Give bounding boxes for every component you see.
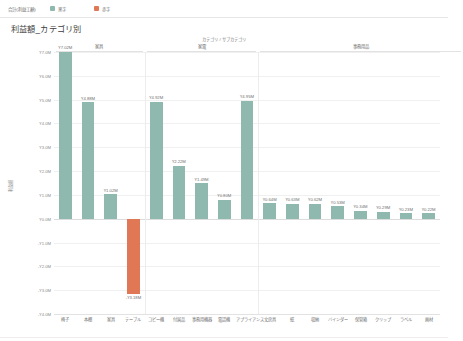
top-legend-bar: 合計(利益工額) 黒字 赤字 — [0, 0, 448, 18]
bar[interactable] — [400, 213, 413, 218]
y-axis-tick: ¥7.0M — [39, 50, 51, 55]
bar-value-label: ¥0.63M — [281, 197, 304, 202]
bar[interactable] — [82, 102, 95, 218]
bar[interactable] — [218, 200, 231, 219]
bar[interactable] — [241, 101, 254, 219]
bar-value-label: ¥0.64M — [258, 197, 281, 202]
bar-value-label: ¥0.29M — [372, 205, 395, 210]
x-axis-tick[interactable]: 画材 — [417, 316, 440, 322]
legend-item-profit[interactable]: 黒字 — [50, 6, 66, 12]
bar[interactable] — [309, 204, 322, 219]
bar-value-label: ¥7.02M — [54, 45, 77, 50]
legend-item-loss[interactable]: 赤字 — [94, 6, 110, 12]
bar[interactable] — [173, 166, 186, 219]
x-axis-tick[interactable]: 保管箱 — [349, 316, 372, 322]
bar-value-label: ¥0.34M — [349, 204, 372, 209]
y-axis-tick: -¥2.0M — [38, 264, 51, 269]
x-axis-tick[interactable]: クリップ — [372, 316, 395, 322]
y-axis-tick: ¥4.0M — [39, 121, 51, 126]
zero-line — [54, 219, 440, 220]
bar[interactable] — [59, 52, 72, 219]
bar-value-label: -¥3.18M — [122, 295, 145, 300]
x-axis-tick[interactable]: 付属品 — [168, 316, 191, 322]
x-axis-tick[interactable]: 事務用機器 — [190, 316, 213, 322]
x-axis-tick[interactable]: 本棚 — [77, 316, 100, 322]
bar-value-label: ¥1.49M — [190, 177, 213, 182]
bar-value-label: ¥0.22M — [417, 207, 440, 212]
x-axis: 椅子本棚家具テーブルコピー機付属品事務用機器電話機アプライアンス文房具紙収納バイ… — [54, 314, 440, 334]
x-axis-tick[interactable]: 電話機 — [213, 316, 236, 322]
gridline — [54, 290, 440, 291]
bar[interactable] — [150, 102, 163, 219]
bar-value-label: ¥2.22M — [168, 159, 191, 164]
bar-value-label: ¥0.53M — [326, 200, 349, 205]
x-axis-tick[interactable]: 紙 — [281, 316, 304, 322]
y-axis-tick: ¥6.0M — [39, 73, 51, 78]
chart-title: 利益額_カテゴリ別 — [11, 22, 81, 34]
x-axis-tick[interactable]: ラベル — [395, 316, 418, 322]
bar[interactable] — [286, 204, 299, 219]
bar[interactable] — [354, 211, 367, 219]
bar-value-label: ¥1.02M — [99, 188, 122, 193]
bar-value-label: ¥0.62M — [304, 197, 327, 202]
bar-value-label: ¥4.95M — [236, 94, 259, 99]
y-axis-tick: ¥2.0M — [39, 169, 51, 174]
legend-swatch-red — [94, 6, 99, 11]
bar[interactable] — [127, 219, 140, 295]
bar[interactable] — [195, 183, 208, 218]
bar[interactable] — [263, 203, 276, 218]
y-axis-tick: ¥0.0M — [39, 216, 51, 221]
measure-label: 合計(利益工額) — [8, 6, 36, 12]
y-axis-title: 利益額 — [7, 180, 13, 192]
y-axis-tick: ¥3.0M — [39, 145, 51, 150]
bar[interactable] — [104, 194, 117, 218]
y-axis-tick: -¥1.0M — [38, 240, 51, 245]
y-axis: 利益額 ¥7.0M¥6.0M¥5.0M¥4.0M¥3.0M¥2.0M¥1.0M¥… — [8, 52, 54, 314]
bar-value-label: ¥0.23M — [395, 207, 418, 212]
legend-label-loss: 赤字 — [102, 6, 110, 12]
x-axis-tick[interactable]: コピー機 — [145, 316, 168, 322]
x-axis-tick[interactable]: 家具 — [99, 316, 122, 322]
bar[interactable] — [377, 212, 390, 219]
x-axis-tick[interactable]: バインダー — [326, 316, 349, 322]
panel-divider — [145, 52, 146, 314]
bar[interactable] — [422, 213, 435, 218]
group-axis-title: カテゴリ / サブカテゴリ — [8, 36, 440, 42]
x-axis-tick[interactable]: テーブル — [122, 316, 145, 322]
bar[interactable] — [331, 206, 344, 219]
gridline — [54, 76, 440, 77]
y-axis-tick: -¥3.0M — [38, 288, 51, 293]
bottom-divider — [0, 337, 448, 338]
x-axis-tick[interactable]: 収納 — [304, 316, 327, 322]
legend-swatch-green — [50, 6, 55, 11]
gridline — [54, 52, 440, 53]
bar-value-label: ¥0.80M — [213, 193, 236, 198]
plot-area: ¥7.02M¥4.88M¥1.02M-¥3.18M¥4.92M¥2.22M¥1.… — [54, 52, 440, 314]
y-axis-tick: -¥4.0M — [38, 312, 51, 317]
x-axis-rule — [54, 314, 440, 315]
y-axis-tick: ¥1.0M — [39, 192, 51, 197]
gridline — [54, 243, 440, 244]
bar-value-label: ¥4.92M — [145, 95, 168, 100]
chart-area: カテゴリ / サブカテゴリ 家具家電事務用品 利益額 ¥7.0M¥6.0M¥5.… — [8, 36, 440, 334]
bar-value-label: ¥4.88M — [77, 96, 100, 101]
legend: 黒字 赤字 — [50, 6, 138, 12]
legend-label-profit: 黒字 — [58, 6, 66, 12]
y-axis-tick: ¥5.0M — [39, 97, 51, 102]
gridline — [54, 266, 440, 267]
x-axis-tick[interactable]: 文房具 — [258, 316, 281, 322]
x-axis-tick[interactable]: 椅子 — [54, 316, 77, 322]
x-axis-tick[interactable]: アプライアンス — [236, 316, 259, 322]
panel-divider — [258, 52, 259, 314]
